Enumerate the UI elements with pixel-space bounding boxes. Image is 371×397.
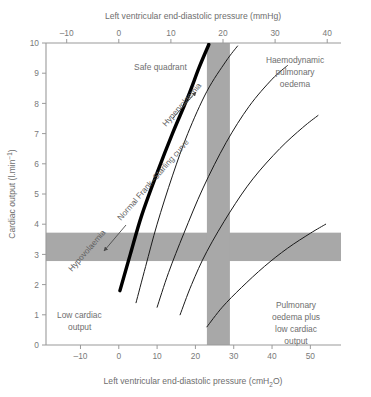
y-axis-title: Cardiac output (l.min−1) (6, 149, 17, 239)
left-tick-label: 6 (34, 159, 39, 169)
label-low-cardiac-output: Low cardiac output (57, 310, 102, 332)
lowco-line-1: Low cardiac (57, 310, 102, 320)
bottom-axis-title-main: Left ventricular end-diastolic pressure … (104, 376, 270, 386)
top-tick-label: 20 (218, 28, 228, 38)
vertical-normal-lvedp-band (207, 43, 230, 345)
lowco-line-2: output (68, 322, 92, 332)
bottom-axis-title-tail: O) (273, 376, 283, 386)
top-tick-label: 30 (270, 28, 280, 38)
poplco-line-2: oedema plus (272, 312, 320, 322)
bottom-axis-title: Left ventricular end-diastolic pressure … (104, 376, 283, 388)
top-tick-label: 10 (166, 28, 176, 38)
left-tick-label: 10 (30, 38, 40, 48)
left-tick-label: 7 (34, 129, 39, 139)
left-tick-label: 1 (34, 310, 39, 320)
left-tick-label: 3 (34, 250, 39, 260)
bottom-tick-label: 10 (152, 351, 162, 361)
left-tick-label: 4 (34, 219, 39, 229)
curve-depressed-curve-3 (180, 115, 318, 314)
label-pulmonary-oedema-plus-low-cardiac-output: Pulmonary oedema plus low cardiac output (272, 300, 320, 346)
bottom-tick-label: 20 (191, 351, 201, 361)
left-tick-label: 2 (34, 280, 39, 290)
left-tick-label: 9 (34, 68, 39, 78)
label-normal-frank-starling-curve: Normal Frank–Starling curve (116, 137, 191, 222)
top-tick-label: 0 (116, 28, 121, 38)
left-tick-label: 8 (34, 99, 39, 109)
top-axis-ticks: –10010203040 (60, 28, 333, 43)
bottom-tick-label: 40 (267, 351, 277, 361)
frank-starling-chart-figure: Left ventricular end-diastolic pressure … (0, 0, 371, 397)
label-haemodynamic-pulmonary-oedema: Haemodynamic pulmonary oedema (266, 55, 324, 89)
top-tick-label: 40 (323, 28, 333, 38)
bottom-tick-label: –10 (73, 351, 87, 361)
poplco-line-1: Pulmonary (276, 300, 317, 310)
bottom-tick-label: 0 (116, 351, 121, 361)
label-hypervolaemia: Hypervolaemia (161, 81, 204, 128)
poplco-line-3: low cardiac (275, 324, 317, 334)
left-tick-label: 0 (34, 340, 39, 350)
bottom-tick-label: 30 (229, 351, 239, 361)
chart-canvas: Left ventricular end-diastolic pressure … (0, 0, 371, 397)
haemo-line-1: Haemodynamic (266, 55, 324, 65)
haemo-line-2: pulmonary (275, 67, 315, 77)
left-axis-ticks: 109876543210 (30, 38, 46, 350)
label-safe-quadrant: Safe quadrant (134, 62, 187, 72)
y-axis-title-tail: ) (7, 149, 17, 152)
top-axis-title: Left ventricular end-diastolic pressure … (105, 11, 281, 21)
left-tick-label: 5 (34, 189, 39, 199)
poplco-line-4: output (284, 336, 308, 346)
top-tick-label: –10 (60, 28, 74, 38)
bottom-tick-label: 50 (306, 351, 316, 361)
bottom-axis-ticks: –1001020304050 (73, 345, 315, 361)
y-axis-title-main: Cardiac output (l.min (7, 159, 17, 239)
haemo-line-3: oedema (280, 79, 311, 89)
